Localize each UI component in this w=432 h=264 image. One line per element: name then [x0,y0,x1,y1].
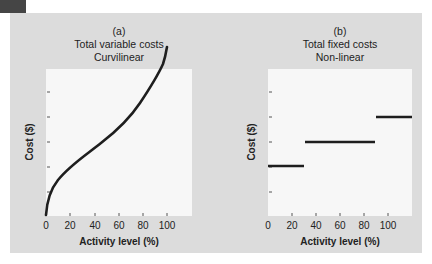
chart-a-x-axis-label: Activity level (%) [79,236,158,247]
chart-a: (a) Total variable costs Curvilinear 0 2… [24,25,192,247]
svg-text:100: 100 [380,220,397,231]
chart-b: (b) Total fixed costs Non-linear 0 20 40… [246,25,412,247]
svg-text:40: 40 [89,220,101,231]
chart-a-y-axis-label: Cost ($) [24,123,35,160]
svg-text:0: 0 [265,220,271,231]
svg-text:60: 60 [334,220,346,231]
plot-area-a [46,69,192,216]
chart-b-x-axis-label: Activity level (%) [300,236,379,247]
chart-b-subtitle: Non-linear [316,51,365,63]
figure: (a) Total variable costs Curvilinear 0 2… [0,0,432,264]
chart-a-x-tick-labels: 0 20 40 60 80 100 [43,220,176,231]
svg-text:60: 60 [113,220,125,231]
chart-a-panel-label: (a) [113,25,126,37]
svg-text:20: 20 [286,220,298,231]
svg-text:0: 0 [43,220,49,231]
svg-text:40: 40 [310,220,322,231]
svg-text:80: 80 [137,220,149,231]
chart-b-y-axis-label: Cost ($) [246,123,257,160]
chart-a-subtitle: Curvilinear [94,51,145,63]
chart-b-title: Total fixed costs [303,38,378,50]
svg-text:100: 100 [159,220,176,231]
svg-text:20: 20 [64,220,76,231]
chart-b-x-tick-labels: 0 20 40 60 80 100 [265,220,397,231]
chart-a-title: Total variable costs [74,38,163,50]
chart-b-panel-label: (b) [334,25,347,37]
svg-text:80: 80 [358,220,370,231]
